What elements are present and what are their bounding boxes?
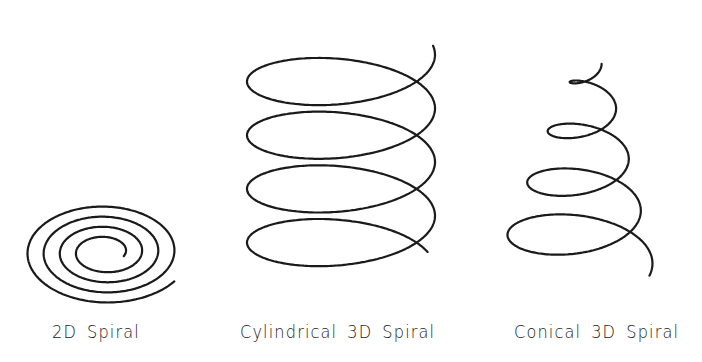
cylindrical-spiral-curve xyxy=(247,46,435,266)
conical-spiral-curve xyxy=(508,64,653,276)
label-cylindrical-spiral: Cylindrical 3D Spiral xyxy=(240,322,435,342)
label-2d-spiral: 2D Spiral xyxy=(52,322,140,342)
2d-spiral-curve xyxy=(28,207,175,303)
label-conical-spiral: Conical 3D Spiral xyxy=(514,322,679,342)
spiral-diagram xyxy=(0,0,702,362)
